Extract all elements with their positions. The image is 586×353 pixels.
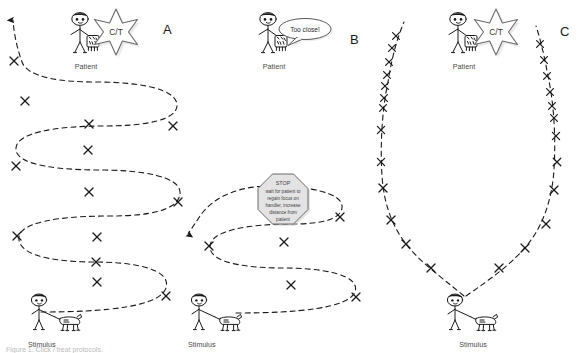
panel-c-stimulus-label: Stimulus <box>440 340 506 349</box>
panel-c-ct-label: C/T <box>489 27 503 37</box>
panel-b-stimulus-label: Stimulus <box>184 340 240 349</box>
panel-b-stop-sign: STOP wait for patient to regain focus on… <box>256 172 310 228</box>
panel-b-stimulus: Stimulus <box>184 292 240 349</box>
figure-caption: Figure 1. Click / treat protocols. <box>6 346 103 353</box>
stop-sign-line-4: distance from <box>269 210 297 215</box>
panel-label-a: A <box>163 22 172 37</box>
stop-sign-line-5: patient <box>276 217 291 222</box>
panel-c-stimulus: Stimulus <box>440 292 506 349</box>
panel-b-speech-bubble: Too close! <box>272 14 334 50</box>
stop-sign-line-3: handler, increase <box>266 203 301 208</box>
panel-b-speech-text: Too close! <box>290 26 320 33</box>
panel-label-b: B <box>350 32 359 47</box>
panel-a-stimulus: Stimulus <box>24 292 80 349</box>
panel-a-ct-marks <box>10 57 182 300</box>
panel-label-c: C <box>560 24 570 39</box>
panel-a-patient-label: Patient <box>62 62 110 71</box>
panel-a-ct-label: C/T <box>109 27 123 37</box>
stimulus-figure-icon <box>24 292 90 336</box>
stop-sign-title: STOP <box>276 180 291 186</box>
panel-a-ct-star: C/T <box>88 6 144 58</box>
stop-sign-line-1: wait for patient to <box>266 189 301 194</box>
stimulus-figure-icon <box>184 292 250 336</box>
stop-sign-line-2: regain focus on <box>267 196 299 201</box>
panel-b-patient-label: Patient <box>250 62 298 71</box>
stimulus-figure-icon <box>440 292 506 336</box>
panel-c-ct-star: C/T <box>468 6 524 58</box>
panel-c-patient-label: Patient <box>440 62 488 71</box>
